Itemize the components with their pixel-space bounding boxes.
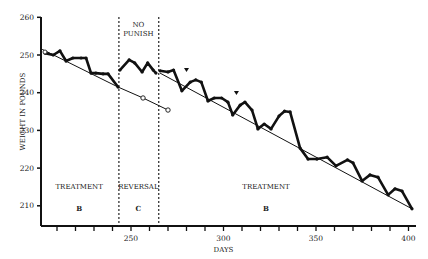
open-circle-marker <box>166 108 170 112</box>
x-tick-label: 400 <box>401 234 416 243</box>
y-tick-label: 210 <box>20 201 35 210</box>
phase-code: B <box>76 204 82 213</box>
x-axis-label: DAYS <box>214 246 234 254</box>
phase-note: PUNISH <box>123 30 153 38</box>
axes: 210220230240250260250300350400DAYSWEIGHT… <box>19 13 416 254</box>
weight-line <box>120 60 156 73</box>
y-tick-label: 220 <box>20 164 35 173</box>
weight-chart: 210220230240250260250300350400DAYSWEIGHT… <box>0 0 428 259</box>
phase-label: TREATMENT <box>242 183 290 191</box>
phase-label: REVERSAL <box>118 183 159 191</box>
x-tick-label: 250 <box>124 234 139 243</box>
y-tick-label: 260 <box>20 13 35 22</box>
x-tick-label: 350 <box>309 234 324 243</box>
triangle-marker <box>184 68 189 72</box>
phase-code: C <box>136 204 142 213</box>
open-circle-marker <box>141 96 145 100</box>
y-tick-label: 250 <box>20 51 35 60</box>
phase-label: TREATMENT <box>55 183 103 191</box>
x-tick-label: 300 <box>216 234 231 243</box>
trend-line <box>42 49 118 87</box>
phase-code: B <box>263 204 269 213</box>
phase-note: NO <box>132 21 144 29</box>
y-axis-label: WEIGHT IN POUNDS <box>19 73 27 151</box>
triangle-marker <box>234 91 239 95</box>
